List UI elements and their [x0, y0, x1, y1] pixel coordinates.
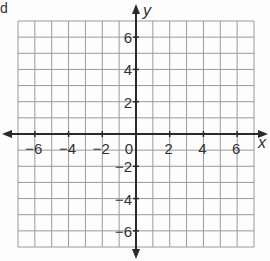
coordinate-plane: −6−4−2246642−2−4−60xy	[0, 0, 270, 261]
y-tick-label: −4	[115, 191, 132, 208]
x-tick-label: 2	[165, 140, 173, 157]
x-tick-label: 6	[232, 140, 240, 157]
x-tick-label: 4	[198, 140, 206, 157]
x-axis-label: x	[257, 134, 267, 151]
y-tick-label: −2	[115, 158, 132, 175]
x-axis-arrow-left-icon	[2, 130, 12, 138]
y-tick-label: −6	[115, 223, 132, 240]
y-axis-arrow-up-icon	[132, 4, 140, 14]
y-tick-label: 2	[124, 94, 132, 111]
x-tick-label: −2	[93, 140, 110, 157]
x-tick-label: −4	[59, 140, 76, 157]
origin-label: 0	[125, 140, 133, 157]
y-tick-label: 6	[124, 29, 132, 46]
y-tick-label: 4	[124, 61, 132, 78]
tick-labels: −6−4−2246642−2−4−60xy	[25, 2, 267, 240]
y-axis-label: y	[142, 2, 152, 19]
y-axis-arrow-down-icon	[132, 249, 140, 259]
axes	[2, 4, 268, 259]
x-tick-label: −6	[25, 140, 42, 157]
